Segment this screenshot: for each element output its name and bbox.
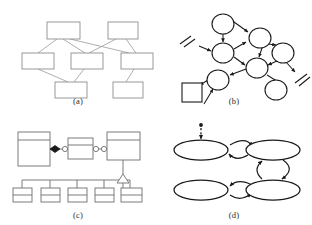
panel-b-caption: (b): [156, 96, 312, 106]
panel-c: (c): [0, 112, 156, 224]
panel-d-graphic: [156, 112, 312, 224]
a-edge-3-6: [38, 69, 68, 82]
b-ellipse-1[interactable]: [212, 14, 234, 34]
d-initial-dot: [199, 123, 203, 127]
d-nodes: [174, 140, 300, 200]
panel-c-graphic: [0, 112, 156, 224]
ball-socket-3[interactable]: [101, 146, 106, 151]
b-ellipse-3[interactable]: [249, 28, 271, 48]
b-nodes: [182, 14, 294, 102]
c-class-1[interactable]: [18, 132, 50, 166]
a-node-3[interactable]: [22, 53, 54, 69]
b-edge-1-3: [234, 22, 248, 32]
a-nodes: [22, 22, 153, 98]
b-edge-3-5: [259, 48, 262, 57]
a-edge-4-6: [74, 69, 84, 82]
b-ellipse-2[interactable]: [212, 43, 234, 63]
d-transition-right-forward: [282, 160, 289, 179]
composition-diamond[interactable]: [50, 146, 60, 153]
d-transition-right-back: [257, 161, 262, 179]
d-state-3[interactable]: [174, 180, 228, 200]
a-edge-2-4: [89, 39, 116, 53]
panel-d-caption: (d): [156, 210, 312, 220]
b-edge-2-3: [234, 42, 246, 49]
a-node-1[interactable]: [47, 22, 80, 39]
b-edge-2-5: [234, 57, 245, 65]
c-class-boxes: [18, 132, 140, 166]
panel-c-caption: (c): [0, 210, 156, 220]
d-transition-bottom-forward: [230, 194, 251, 198]
figure-root: (a): [0, 0, 312, 225]
b-edge-cut-to-2: [199, 46, 211, 51]
a-edge-5-7: [126, 69, 134, 82]
ball-socket-2[interactable]: [93, 146, 98, 151]
b-edge-4-cut: [286, 62, 295, 72]
b-cut-marker-right-stroke-1: [295, 74, 307, 83]
c-class-3[interactable]: [107, 132, 140, 160]
panel-d: (d): [156, 112, 312, 224]
a-node-5[interactable]: [121, 53, 153, 69]
d-transition-top-back: [229, 154, 248, 158]
a-edge-1-5: [70, 39, 129, 53]
panel-b: (b): [156, 0, 312, 112]
panel-a: (a): [0, 0, 156, 112]
d-state-1[interactable]: [174, 140, 228, 160]
a-node-4[interactable]: [71, 53, 103, 69]
b-ellipse-5[interactable]: [246, 58, 268, 78]
a-node-2[interactable]: [108, 22, 138, 39]
panel-a-caption: (a): [0, 96, 156, 106]
d-state-4[interactable]: [246, 180, 300, 200]
ball-socket-1[interactable]: [62, 146, 67, 151]
c-leaf-boxes: [13, 188, 142, 202]
a-edge-1-3: [38, 39, 57, 53]
c-class-2[interactable]: [68, 138, 93, 159]
a-edge-1-4: [63, 39, 85, 53]
b-ellipse-6[interactable]: [207, 70, 229, 90]
b-edge-4-5: [268, 61, 277, 65]
b-edge-5-6: [230, 69, 246, 75]
generalization-triangle[interactable]: [117, 174, 129, 183]
d-initial-marker: [199, 123, 203, 139]
b-ellipse-4[interactable]: [272, 43, 294, 63]
d-state-2[interactable]: [246, 140, 300, 160]
a-edge-2-5: [126, 39, 136, 53]
